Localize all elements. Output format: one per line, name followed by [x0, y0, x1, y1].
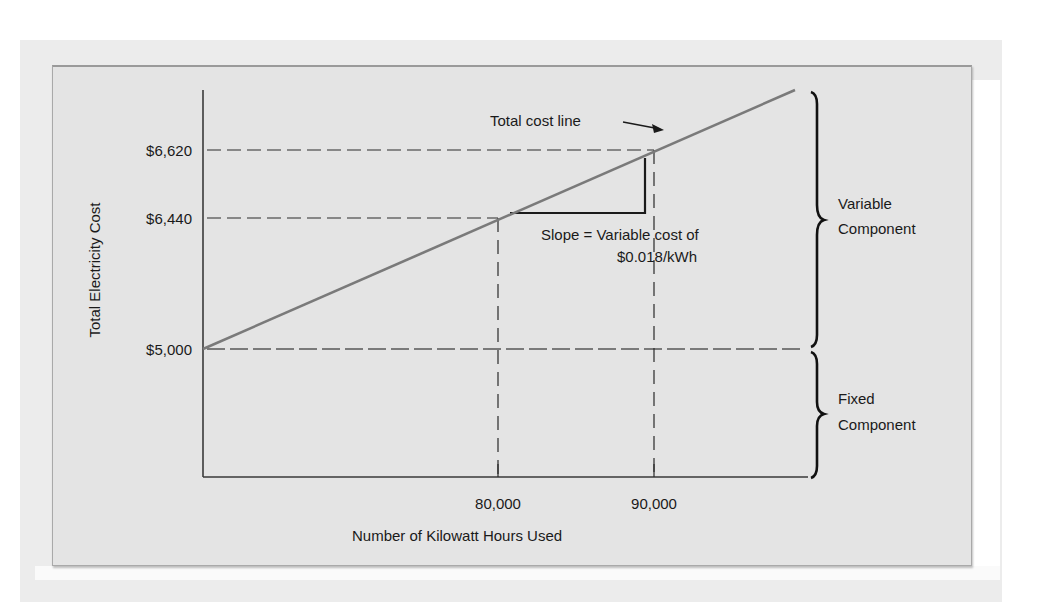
variable-component-brace — [811, 92, 824, 347]
y-tick-label-5000: $5,000 — [146, 341, 192, 358]
variable-component-label-line1: Variable — [838, 195, 892, 212]
variable-component-label-line2: Component — [838, 220, 916, 237]
x-tick-label-90000: 90,000 — [631, 495, 677, 512]
cost-behavior-chart: $6,620 $6,440 $5,000 Total Electricity C… — [0, 0, 1050, 614]
x-axis-title: Number of Kilowatt Hours Used — [352, 527, 562, 544]
arrow-head-icon — [652, 124, 664, 133]
fixed-component-label-line1: Fixed — [838, 390, 875, 407]
slope-label-line2: $0.018/kWh — [617, 248, 697, 265]
fixed-component-brace — [811, 352, 824, 478]
y-axis-title: Total Electricity Cost — [86, 202, 103, 338]
total-cost-line-label: Total cost line — [490, 112, 581, 129]
x-tick-label-80000: 80,000 — [475, 495, 521, 512]
fixed-component-label-line2: Component — [838, 416, 916, 433]
slope-label-line1: Slope = Variable cost of — [541, 226, 700, 243]
y-tick-label-6440: $6,440 — [146, 210, 192, 227]
y-tick-label-6620: $6,620 — [146, 142, 192, 159]
